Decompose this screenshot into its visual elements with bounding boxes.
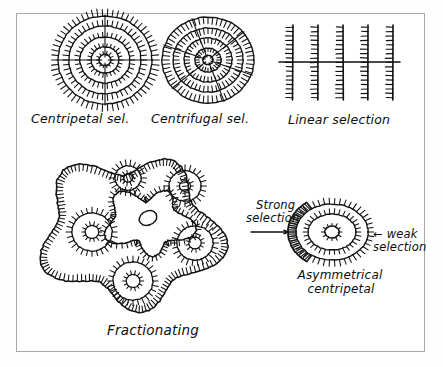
spike (119, 37, 122, 41)
spike (187, 35, 191, 40)
blob-spike (125, 187, 126, 191)
spike (164, 181, 169, 182)
spike (93, 81, 95, 86)
blob-spike (182, 268, 184, 275)
spike (218, 41, 220, 45)
spike (212, 247, 217, 248)
spike (180, 41, 185, 45)
spike (229, 79, 233, 83)
spike (127, 71, 132, 74)
spike (109, 53, 111, 56)
spike (98, 33, 99, 37)
spike (75, 55, 81, 56)
spike (357, 207, 361, 212)
spike (76, 213, 79, 217)
spike (127, 286, 129, 288)
spike (174, 52, 180, 54)
spike (134, 36, 139, 40)
spike (127, 170, 128, 174)
blob-spike (183, 193, 189, 194)
spike (124, 284, 127, 285)
spike (339, 199, 340, 205)
spike (176, 70, 181, 72)
spike (205, 67, 206, 72)
blob-spike (59, 273, 61, 279)
spike (110, 56, 113, 57)
blob-spike (159, 187, 161, 192)
spike (71, 80, 76, 83)
spike (91, 69, 94, 72)
spike (115, 69, 118, 72)
spike (226, 63, 232, 64)
spike (115, 81, 117, 86)
blob-spike (182, 186, 188, 187)
spike (94, 238, 95, 241)
spike (129, 51, 134, 53)
spike (177, 86, 182, 92)
spike (96, 251, 97, 256)
blob-spike (64, 274, 65, 281)
spike (139, 277, 142, 279)
spike (92, 92, 94, 97)
blob-spike (128, 304, 131, 310)
caption-asym-line-1: Asymmetrical (288, 268, 392, 282)
spike (71, 37, 76, 40)
spike (365, 243, 370, 245)
spike (346, 246, 349, 250)
spike (246, 68, 253, 69)
spike (187, 247, 190, 250)
spike (353, 204, 357, 209)
spike (224, 93, 227, 99)
spike (213, 50, 215, 53)
spike (172, 238, 177, 239)
spike (124, 27, 127, 32)
spike (356, 228, 361, 229)
spike (324, 249, 326, 254)
spike (110, 72, 111, 75)
spike (150, 73, 157, 75)
blob-spike (56, 187, 63, 188)
spike (144, 85, 150, 89)
caption-fractionating: Fractionating (107, 322, 199, 338)
spike (186, 241, 189, 242)
blob-spike (91, 166, 93, 173)
spike (110, 181, 116, 183)
spike (86, 12, 88, 19)
inner-circle-2 (72, 213, 113, 252)
spike (212, 238, 217, 239)
spike (174, 31, 179, 36)
blob-spike (135, 305, 136, 312)
blob-spike (59, 212, 66, 213)
spike (203, 86, 204, 92)
spike (55, 40, 62, 43)
blob-spike (40, 260, 47, 261)
panel-fractionating (40, 159, 228, 313)
spike (120, 91, 122, 96)
blob-spike (67, 168, 70, 174)
spike (344, 258, 346, 264)
spike (67, 226, 73, 227)
spike (140, 173, 145, 174)
blob-spike (218, 232, 223, 236)
blob-spike (96, 275, 97, 281)
spike (117, 262, 121, 267)
spike (173, 247, 178, 248)
spike (134, 80, 139, 84)
spike (233, 44, 238, 47)
spike (130, 55, 134, 56)
spike (212, 86, 213, 92)
spike (89, 37, 91, 41)
spike (241, 78, 248, 82)
spike (121, 101, 123, 107)
blob-spike (106, 172, 109, 178)
blob-spike (160, 252, 165, 255)
spike (350, 216, 354, 219)
spike (83, 235, 86, 236)
spike (135, 271, 136, 275)
spike (193, 199, 196, 204)
spike (188, 179, 189, 182)
spike (323, 198, 324, 204)
inner-circle-0 (115, 166, 141, 191)
spike (182, 225, 185, 229)
spike (104, 212, 108, 217)
